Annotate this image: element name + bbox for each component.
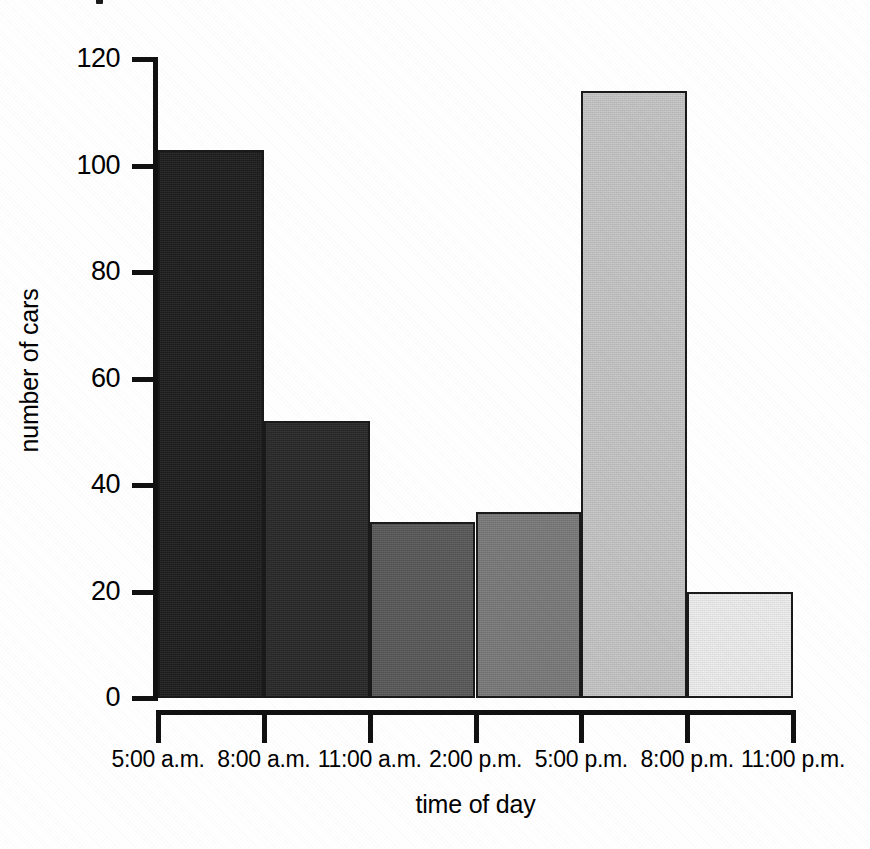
bar bbox=[370, 522, 476, 698]
x-axis-tick-mark bbox=[474, 710, 479, 743]
y-axis-tick-mark bbox=[132, 483, 158, 488]
x-axis-tick-label: 11:00 a.m. bbox=[318, 744, 422, 774]
bar-texture bbox=[689, 594, 791, 697]
bar-texture bbox=[478, 514, 580, 696]
y-axis-tick-mark bbox=[132, 590, 158, 595]
y-axis-tick-label: 20 bbox=[91, 575, 120, 607]
x-axis-tick-mark bbox=[262, 710, 267, 743]
x-axis-tick-label: 8:00 a.m. bbox=[217, 744, 310, 774]
x-axis-tick-label: 2:00 p.m. bbox=[429, 744, 522, 774]
bar-texture bbox=[160, 152, 262, 696]
bar bbox=[687, 592, 793, 699]
x-axis-tick-label: 8:00 p.m. bbox=[641, 744, 734, 774]
y-axis-tick-mark bbox=[132, 377, 158, 382]
x-axis-tick-mark bbox=[685, 710, 690, 743]
bar-texture bbox=[372, 524, 474, 696]
y-axis-tick-label: 80 bbox=[91, 255, 120, 287]
y-axis-tick-mark bbox=[132, 164, 158, 169]
x-axis-tick-mark bbox=[368, 710, 373, 743]
bar bbox=[158, 150, 264, 698]
y-axis-tick-label: 0 bbox=[105, 681, 120, 713]
y-axis-tick-label: 40 bbox=[91, 468, 120, 500]
bar bbox=[264, 421, 370, 698]
y-axis-title: number of cars bbox=[15, 266, 44, 476]
y-axis-tick-mark bbox=[132, 696, 158, 701]
x-axis-tick-label: 11:00 p.m. bbox=[741, 744, 845, 774]
bar-texture bbox=[266, 423, 368, 696]
x-axis-title: time of day bbox=[158, 790, 793, 819]
x-axis-tick-mark bbox=[579, 710, 584, 743]
x-axis-tick-label: 5:00 a.m. bbox=[111, 744, 204, 774]
x-axis-tick-label: 5:00 p.m. bbox=[535, 744, 628, 774]
bar bbox=[476, 512, 582, 698]
cropped-title-remnant bbox=[96, 0, 103, 4]
y-axis-tick-label: 120 bbox=[76, 42, 120, 74]
plot-area bbox=[158, 59, 793, 698]
x-axis-tick-mark bbox=[791, 710, 796, 743]
bar-chart-figure: number of cars 020406080100120 5:00 a.m.… bbox=[0, 0, 870, 849]
y-axis-tick-mark bbox=[132, 270, 158, 275]
bar bbox=[581, 91, 687, 698]
bar-texture bbox=[583, 93, 685, 696]
y-axis-tick-mark bbox=[132, 57, 158, 62]
y-axis-tick-label: 100 bbox=[76, 149, 120, 181]
x-axis-tick-mark bbox=[156, 710, 161, 743]
y-axis-tick-label: 60 bbox=[91, 362, 120, 394]
